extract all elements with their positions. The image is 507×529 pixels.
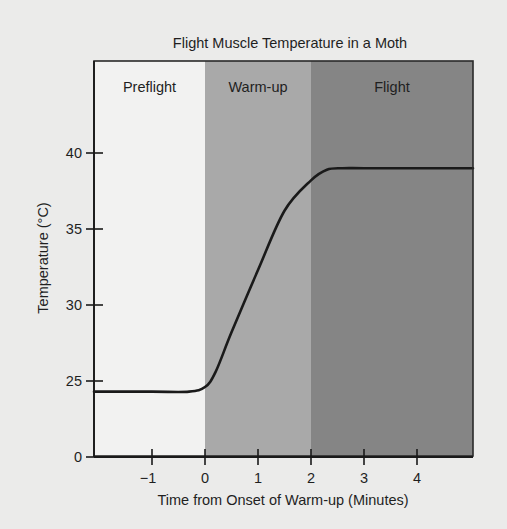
y-tick-label: 30	[66, 297, 82, 313]
phase-bands: PreflightWarm-upFlight	[94, 61, 473, 456]
y-axis-label: Temperature (°C)	[35, 202, 51, 313]
band-warm-up	[205, 61, 311, 456]
band-label: Preflight	[123, 79, 176, 95]
chart: Flight Muscle Temperature in a Moth Pref…	[0, 0, 507, 529]
x-tick-label: 0	[201, 470, 209, 486]
y-tick-label: 35	[66, 221, 82, 237]
x-tick-label: −1	[140, 470, 157, 486]
x-tick-label: 3	[360, 470, 368, 486]
y-tick-label: 0	[74, 449, 82, 465]
band-label: Warm-up	[228, 79, 287, 95]
x-tick-label: 4	[413, 470, 421, 486]
band-label: Flight	[374, 79, 409, 95]
chart-title: Flight Muscle Temperature in a Moth	[173, 35, 407, 51]
y-tick-label: 40	[66, 145, 82, 161]
x-tick-label: 2	[307, 470, 315, 486]
band-preflight	[94, 61, 205, 456]
x-axis-label: Time from Onset of Warm-up (Minutes)	[157, 492, 408, 508]
band-flight	[311, 61, 473, 456]
x-tick-label: 1	[254, 470, 262, 486]
y-tick-label: 25	[66, 373, 82, 389]
